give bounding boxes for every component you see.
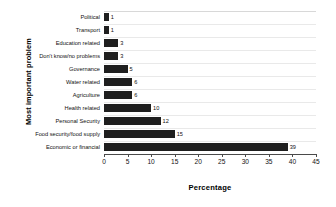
category-label: Personal Security xyxy=(0,117,100,125)
bar[interactable] xyxy=(104,26,109,34)
bar-row[interactable]: 6 xyxy=(104,76,316,89)
x-axis-tick xyxy=(269,154,270,157)
x-axis-tick-label: 30 xyxy=(233,158,257,165)
bar[interactable] xyxy=(104,143,288,151)
x-axis-tick xyxy=(198,154,199,157)
bar[interactable] xyxy=(104,65,128,73)
bar-value-label: 3 xyxy=(120,52,123,60)
category-label: Water related xyxy=(0,78,100,86)
bar[interactable] xyxy=(104,117,161,125)
category-label: Transport xyxy=(0,26,100,34)
category-label: Food security/food supply xyxy=(0,130,100,138)
bar-value-label: 5 xyxy=(130,65,133,73)
x-axis-line xyxy=(104,154,316,155)
x-axis-tick xyxy=(245,154,246,157)
x-axis-tick-label: 15 xyxy=(163,158,187,165)
bar-value-label: 1 xyxy=(111,26,114,34)
bar-row[interactable]: 3 xyxy=(104,50,316,63)
category-label: Governance xyxy=(0,65,100,73)
x-axis-tick xyxy=(151,154,152,157)
x-axis-tick-label: 10 xyxy=(139,158,163,165)
y-axis-tick-labels: PoliticalTransportEducation relatedDon't… xyxy=(0,11,100,154)
x-axis-tick xyxy=(292,154,293,157)
bar-value-label: 15 xyxy=(177,130,183,138)
x-axis-tick-label: 25 xyxy=(210,158,234,165)
bar-value-label: 3 xyxy=(120,39,123,47)
x-axis-tick-label: 40 xyxy=(280,158,304,165)
bar-value-label: 12 xyxy=(163,117,169,125)
bar[interactable] xyxy=(104,91,132,99)
bar-row[interactable]: 1 xyxy=(104,11,316,24)
x-axis-tick-label: 20 xyxy=(186,158,210,165)
bar-row[interactable]: 12 xyxy=(104,115,316,128)
bar-row[interactable]: 3 xyxy=(104,37,316,50)
x-axis-tick-label: 45 xyxy=(304,158,328,165)
bar[interactable] xyxy=(104,52,118,60)
x-axis-tick-label: 5 xyxy=(116,158,140,165)
bar-value-label: 39 xyxy=(290,143,296,151)
bar-row[interactable]: 10 xyxy=(104,102,316,115)
x-axis-tick xyxy=(128,154,129,157)
bar-row[interactable]: 1 xyxy=(104,24,316,37)
bar[interactable] xyxy=(104,104,151,112)
bar-value-label: 6 xyxy=(134,78,137,86)
bar-value-label: 10 xyxy=(153,104,159,112)
bar-row[interactable]: 15 xyxy=(104,128,316,141)
bar[interactable] xyxy=(104,130,175,138)
x-axis-tick-label: 0 xyxy=(92,158,116,165)
bar-row[interactable]: 39 xyxy=(104,141,316,154)
bar-value-label: 6 xyxy=(134,91,137,99)
bar[interactable] xyxy=(104,39,118,47)
bar[interactable] xyxy=(104,13,109,21)
bar-value-label: 1 xyxy=(111,13,114,21)
category-label: Don't know/no problems xyxy=(0,52,100,60)
bar[interactable] xyxy=(104,78,132,86)
bar-row[interactable]: 5 xyxy=(104,63,316,76)
category-label: Political xyxy=(0,13,100,21)
bar-row[interactable]: 6 xyxy=(104,89,316,102)
category-label: Agriculture xyxy=(0,91,100,99)
category-label: Health related xyxy=(0,104,100,112)
category-label: Economic or financial xyxy=(0,143,100,151)
x-axis-tick xyxy=(316,154,317,157)
x-axis-tick xyxy=(175,154,176,157)
plot-area: 113356610121539 xyxy=(104,11,316,154)
x-axis-tick xyxy=(104,154,105,157)
x-axis-tick-label: 35 xyxy=(257,158,281,165)
x-axis-tick xyxy=(222,154,223,157)
x-axis-title: Percentage xyxy=(104,183,316,192)
category-label: Education related xyxy=(0,39,100,47)
bar-chart-figure: Most important problem PoliticalTranspor… xyxy=(0,0,336,207)
